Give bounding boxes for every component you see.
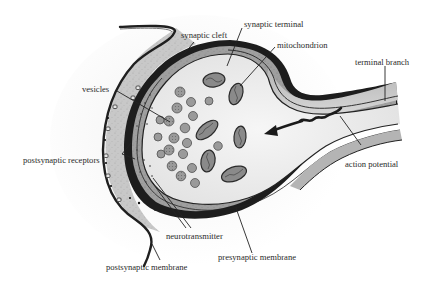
label-postsynaptic-membrane: postsynaptic membrane: [106, 262, 188, 272]
label-synaptic-terminal: synaptic terminal: [244, 19, 304, 29]
label-mitochondrion: mitochondrion: [277, 40, 328, 50]
label-neurotransmitter: neurotransmitter: [166, 231, 223, 241]
label-postsynaptic-receptors: postsynaptic receptors: [23, 155, 100, 165]
label-vesicles: vesicles: [82, 84, 110, 94]
synapse-diagram: synaptic cleft synaptic terminal mitocho…: [0, 0, 442, 288]
label-terminal-branch: terminal branch: [355, 57, 410, 67]
label-synaptic-cleft: synaptic cleft: [181, 30, 228, 40]
label-presynaptic-membrane: presynaptic membrane: [218, 252, 296, 262]
label-action-potential: action potential: [345, 159, 399, 169]
